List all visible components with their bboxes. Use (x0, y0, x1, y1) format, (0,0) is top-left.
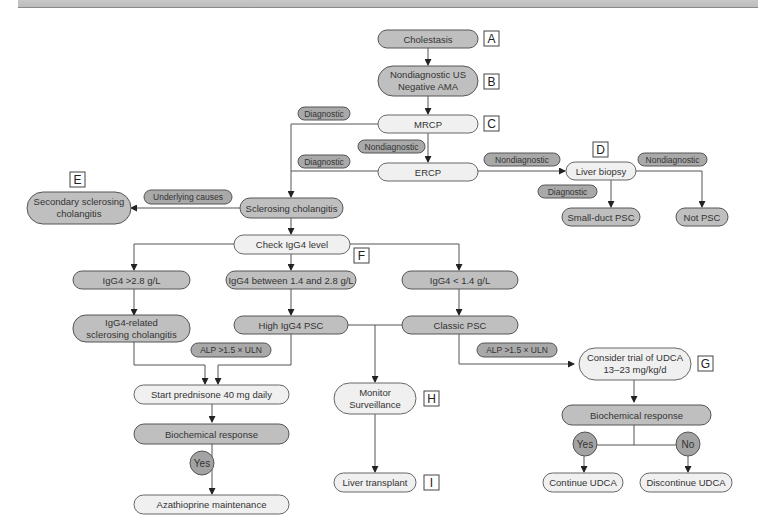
svg-text:Yes: Yes (194, 458, 210, 469)
svg-text:Not PSC: Not PSC (684, 212, 721, 223)
svg-text:Sclerosing cholangitis: Sclerosing cholangitis (246, 203, 338, 214)
svg-text:Discontinue UDCA: Discontinue UDCA (646, 477, 726, 488)
node-igg4-mid: IgG4 between 1.4 and 2.8 g/L (226, 271, 356, 289)
step-label-a: A (484, 31, 499, 46)
svg-text:Negative AMA: Negative AMA (398, 81, 459, 92)
step-label-c: C (484, 116, 499, 131)
svg-text:Biochemical response: Biochemical response (165, 429, 258, 440)
decision-no-right: No (676, 432, 700, 456)
node-discontinue-udca: Discontinue UDCA (640, 473, 732, 492)
node-continue-udca: Continue UDCA (543, 473, 623, 492)
svg-text:IgG4 between 1.4 and 2.8 g/L: IgG4 between 1.4 and 2.8 g/L (228, 275, 353, 286)
svg-text:I: I (430, 476, 433, 490)
node-azathioprine-maintenance: Azathioprine maintenance (134, 495, 289, 514)
node-sclerosing-cholangitis: Sclerosing cholangitis (240, 198, 343, 218)
svg-text:Surveillance: Surveillance (349, 399, 401, 410)
edge-label-alp-right: ALP >1.5 × ULN (477, 343, 557, 357)
svg-text:Biochemical response: Biochemical response (590, 410, 683, 421)
flowchart: Cholestasis A Nondiagnostic US Negative … (0, 0, 758, 527)
svg-text:ALP >1.5 × ULN: ALP >1.5 × ULN (200, 345, 262, 355)
svg-text:Azathioprine maintenance: Azathioprine maintenance (157, 499, 267, 510)
decision-yes-left: Yes (190, 451, 214, 475)
svg-text:Diagnostic: Diagnostic (304, 157, 344, 167)
svg-text:G: G (701, 357, 710, 371)
svg-text:A: A (487, 32, 495, 46)
edge-label-biopsy-nondiagnostic: Nondiagnostic (638, 153, 707, 166)
svg-text:Secondary sclerosing: Secondary sclerosing (34, 196, 125, 207)
step-label-g: G (698, 356, 713, 371)
node-udca-trial: Consider trial of UDCA 13–23 mg/kg/d (579, 348, 691, 380)
node-ercp: ERCP (378, 163, 478, 181)
edge-label-mrcp-nondiagnostic: Nondiagnostic (358, 140, 425, 153)
svg-text:B: B (487, 75, 495, 89)
node-high-igg4-psc: High IgG4 PSC (234, 316, 348, 334)
node-igg4-related-sc: IgG4-related sclerosing cholangitis (73, 315, 190, 342)
svg-text:F: F (358, 249, 365, 263)
svg-text:Nondiagnostic: Nondiagnostic (646, 155, 701, 165)
svg-text:D: D (596, 143, 605, 157)
svg-text:ERCP: ERCP (415, 167, 441, 178)
svg-text:IgG4 < 1.4 g/L: IgG4 < 1.4 g/L (430, 275, 490, 286)
svg-text:Liver biopsy: Liver biopsy (576, 166, 627, 177)
node-mrcp: MRCP (378, 115, 478, 133)
svg-text:Monitor: Monitor (359, 387, 391, 398)
node-liver-biopsy: Liver biopsy (566, 162, 636, 180)
svg-text:sclerosing cholangitis: sclerosing cholangitis (86, 329, 177, 340)
svg-text:Small-duct PSC: Small-duct PSC (567, 212, 634, 223)
svg-text:Yes: Yes (577, 439, 593, 450)
edge-label-biopsy-diagnostic: Diagnostic (538, 185, 597, 198)
node-igg4-high: IgG4 >2.8 g/L (73, 271, 190, 289)
step-label-e: E (70, 172, 85, 187)
edge-label-mrcp-diagnostic: Diagnostic (298, 107, 350, 120)
svg-text:Consider trial of UDCA: Consider trial of UDCA (587, 352, 684, 363)
svg-text:Nondiagnostic: Nondiagnostic (365, 142, 420, 152)
decision-yes-right: Yes (573, 432, 597, 456)
edge-label-alp-left: ALP >1.5 × ULN (191, 343, 271, 357)
step-label-b: B (484, 74, 499, 89)
svg-text:Start prednisone 40 mg daily: Start prednisone 40 mg daily (151, 389, 272, 400)
node-check-igg4: Check IgG4 level (234, 235, 350, 254)
svg-text:13–23 mg/kg/d: 13–23 mg/kg/d (604, 364, 667, 375)
svg-text:Liver transplant: Liver transplant (343, 477, 408, 488)
svg-text:IgG4-related: IgG4-related (105, 317, 158, 328)
edge-label-ercp-diagnostic: Diagnostic (298, 155, 350, 168)
svg-text:Check IgG4 level: Check IgG4 level (256, 239, 328, 250)
node-biochemical-response-right: Biochemical response (562, 405, 711, 425)
svg-text:IgG4 >2.8 g/L: IgG4 >2.8 g/L (103, 275, 161, 286)
node-classic-psc: Classic PSC (402, 316, 518, 334)
svg-text:MRCP: MRCP (414, 119, 442, 130)
node-nondiagnostic-us: Nondiagnostic US Negative AMA (378, 66, 478, 96)
svg-text:Nondiagnostic: Nondiagnostic (495, 155, 550, 165)
svg-text:Underlying causes: Underlying causes (153, 192, 223, 202)
node-not-psc: Not PSC (676, 208, 728, 226)
svg-text:High IgG4 PSC: High IgG4 PSC (259, 320, 324, 331)
node-biochemical-response-left: Biochemical response (134, 424, 289, 444)
svg-text:Diagnostic: Diagnostic (548, 187, 588, 197)
node-secondary-sclerosing-cholangitis: Secondary sclerosing cholangitis (27, 192, 131, 224)
svg-text:Classic PSC: Classic PSC (434, 320, 487, 331)
svg-text:E: E (73, 173, 81, 187)
node-start-prednisone: Start prednisone 40 mg daily (134, 385, 289, 404)
node-cholestasis: Cholestasis (378, 30, 478, 48)
node-liver-transplant: Liver transplant (334, 473, 416, 492)
svg-text:Continue UDCA: Continue UDCA (549, 477, 617, 488)
step-label-d: D (593, 142, 608, 157)
node-monitor-surveillance: Monitor Surveillance (334, 383, 416, 414)
step-label-f: F (354, 248, 369, 263)
step-label-h: H (424, 391, 439, 406)
svg-text:H: H (427, 392, 436, 406)
svg-text:Cholestasis: Cholestasis (403, 34, 452, 45)
svg-text:cholangitis: cholangitis (57, 208, 102, 219)
step-label-i: I (424, 475, 439, 490)
node-small-duct-psc: Small-duct PSC (562, 208, 640, 226)
edge-label-ercp-nondiagnostic: Nondiagnostic (484, 153, 560, 166)
svg-text:Nondiagnostic US: Nondiagnostic US (390, 69, 466, 80)
svg-text:ALP >1.5 × ULN: ALP >1.5 × ULN (486, 345, 548, 355)
node-igg4-low: IgG4 < 1.4 g/L (402, 271, 518, 289)
svg-text:No: No (682, 439, 695, 450)
svg-text:Diagnostic: Diagnostic (304, 109, 344, 119)
edge-label-underlying-causes: Underlying causes (144, 190, 232, 204)
svg-text:C: C (487, 117, 496, 131)
